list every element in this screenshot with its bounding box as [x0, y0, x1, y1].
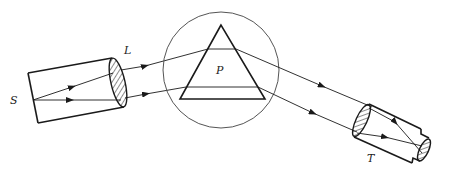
prism-p — [180, 25, 265, 99]
label-prism: P — [215, 64, 224, 77]
label-telescope: T — [367, 152, 376, 165]
label-source: S — [10, 94, 18, 107]
label-lens: L — [123, 44, 131, 57]
telescope-t — [349, 102, 433, 163]
emergent-rays — [236, 49, 372, 132]
spectrometer-diagram: S L P T — [0, 0, 449, 172]
lens-l — [106, 57, 131, 109]
collimator-rays — [33, 73, 121, 100]
